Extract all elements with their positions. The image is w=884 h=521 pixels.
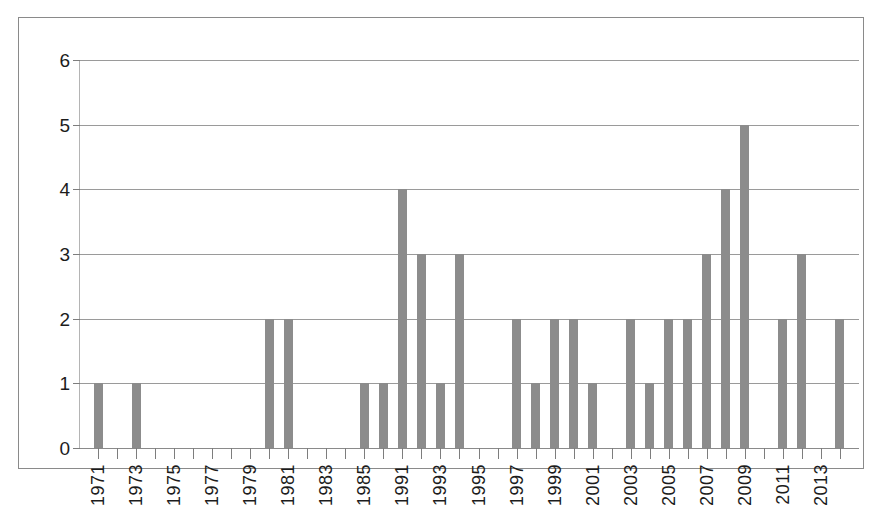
- y-tick-mark: [73, 319, 80, 320]
- x-tick-label-1977: 1977: [203, 464, 221, 506]
- y-tick-label-5: 5: [59, 115, 70, 134]
- x-tick-mark: [764, 448, 765, 459]
- y-tick-label-2: 2: [59, 309, 70, 328]
- x-tick-mark: [669, 448, 670, 459]
- x-tick-mark: [345, 448, 346, 459]
- x-tick-label-2001: 2001: [584, 464, 602, 506]
- x-tick-label-1995: 1995: [470, 464, 488, 506]
- x-tick-mark: [612, 448, 613, 459]
- bar-2003: [626, 319, 635, 448]
- y-tick-mark: [73, 254, 80, 255]
- bar-1993: [436, 383, 445, 448]
- chart-frame: 0123456 19711973197519771979198119831985…: [18, 17, 864, 469]
- bar-2011: [778, 319, 787, 448]
- x-tick-label-2007: 2007: [698, 464, 716, 506]
- x-tick-mark: [840, 448, 841, 459]
- bar-1999: [550, 319, 559, 448]
- bar-1992: [417, 254, 426, 448]
- x-tick-mark: [326, 448, 327, 459]
- x-tick-label-1997: 1997: [508, 464, 526, 506]
- y-tick-mark: [73, 448, 80, 449]
- x-tick-mark: [574, 448, 575, 459]
- x-tick-mark: [593, 448, 594, 459]
- bar-1997: [512, 319, 521, 448]
- x-tick-label-1973: 1973: [127, 464, 145, 506]
- bar-1981: [284, 319, 293, 448]
- x-tick-mark: [98, 448, 99, 459]
- x-tick-mark: [288, 448, 289, 459]
- bar-2000: [569, 319, 578, 448]
- x-tick-label-2003: 2003: [622, 464, 640, 506]
- x-tick-label-1979: 1979: [241, 464, 259, 506]
- x-tick-mark: [555, 448, 556, 459]
- x-tick-label-1993: 1993: [431, 464, 449, 506]
- x-tick-mark: [650, 448, 651, 459]
- x-tick-label-2005: 2005: [660, 464, 678, 506]
- y-tick-label-0: 0: [59, 439, 70, 458]
- x-tick-mark: [459, 448, 460, 459]
- x-tick-mark: [631, 448, 632, 459]
- x-tick-mark: [383, 448, 384, 459]
- y-tick-label-4: 4: [59, 180, 70, 199]
- x-tick-label-1991: 1991: [393, 464, 411, 506]
- x-tick-label-1981: 1981: [279, 464, 297, 506]
- x-tick-mark: [402, 448, 403, 459]
- x-tick-label-2009: 2009: [736, 464, 754, 506]
- x-tick-mark: [307, 448, 308, 459]
- x-tick-label-1983: 1983: [317, 464, 335, 506]
- x-tick-mark: [193, 448, 194, 459]
- x-tick-label-2011: 2011: [774, 464, 792, 505]
- x-tick-mark: [688, 448, 689, 459]
- bar-1994: [455, 254, 464, 448]
- bar-1985: [360, 383, 369, 448]
- x-tick-mark: [802, 448, 803, 459]
- x-tick-mark: [212, 448, 213, 459]
- x-tick-label-1985: 1985: [355, 464, 373, 506]
- x-tick-mark: [536, 448, 537, 459]
- bar-2009: [740, 125, 749, 448]
- bar-1986: [379, 383, 388, 448]
- bar-2007: [702, 254, 711, 448]
- bar-2008: [721, 189, 730, 448]
- bar-2014: [835, 319, 844, 448]
- bar-1991: [398, 189, 407, 448]
- bar-1998: [531, 383, 540, 448]
- gridline-0: [79, 448, 859, 449]
- x-tick-label-1971: 1971: [89, 464, 107, 506]
- x-tick-mark: [821, 448, 822, 459]
- bar-1971: [94, 383, 103, 448]
- x-tick-mark: [117, 448, 118, 459]
- y-tick-mark: [73, 383, 80, 384]
- x-tick-mark: [155, 448, 156, 459]
- y-tick-label-1: 1: [59, 374, 70, 393]
- gridline-6: [79, 60, 859, 61]
- x-tick-mark: [440, 448, 441, 459]
- bar-2001: [588, 383, 597, 448]
- x-tick-mark: [136, 448, 137, 459]
- x-tick-mark: [250, 448, 251, 459]
- x-tick-mark: [174, 448, 175, 459]
- y-tick-mark: [73, 60, 80, 61]
- bar-2005: [664, 319, 673, 448]
- y-tick-mark: [73, 125, 80, 126]
- x-tick-mark: [707, 448, 708, 459]
- y-tick-label-6: 6: [59, 51, 70, 70]
- x-tick-mark: [269, 448, 270, 459]
- bar-1973: [132, 383, 141, 448]
- bar-2004: [645, 383, 654, 448]
- x-tick-mark: [726, 448, 727, 459]
- x-tick-mark: [783, 448, 784, 459]
- x-tick-mark: [517, 448, 518, 459]
- x-tick-label-1999: 1999: [546, 464, 564, 506]
- x-tick-label-2013: 2013: [812, 464, 830, 506]
- plot-area: 0123456: [79, 60, 859, 448]
- bar-1980: [265, 319, 274, 448]
- x-tick-mark: [364, 448, 365, 459]
- y-tick-mark: [73, 189, 80, 190]
- x-tick-mark: [745, 448, 746, 459]
- x-tick-mark: [421, 448, 422, 459]
- bar-2006: [683, 319, 692, 448]
- x-tick-mark: [498, 448, 499, 459]
- x-tick-mark: [231, 448, 232, 459]
- x-tick-label-1975: 1975: [165, 464, 183, 506]
